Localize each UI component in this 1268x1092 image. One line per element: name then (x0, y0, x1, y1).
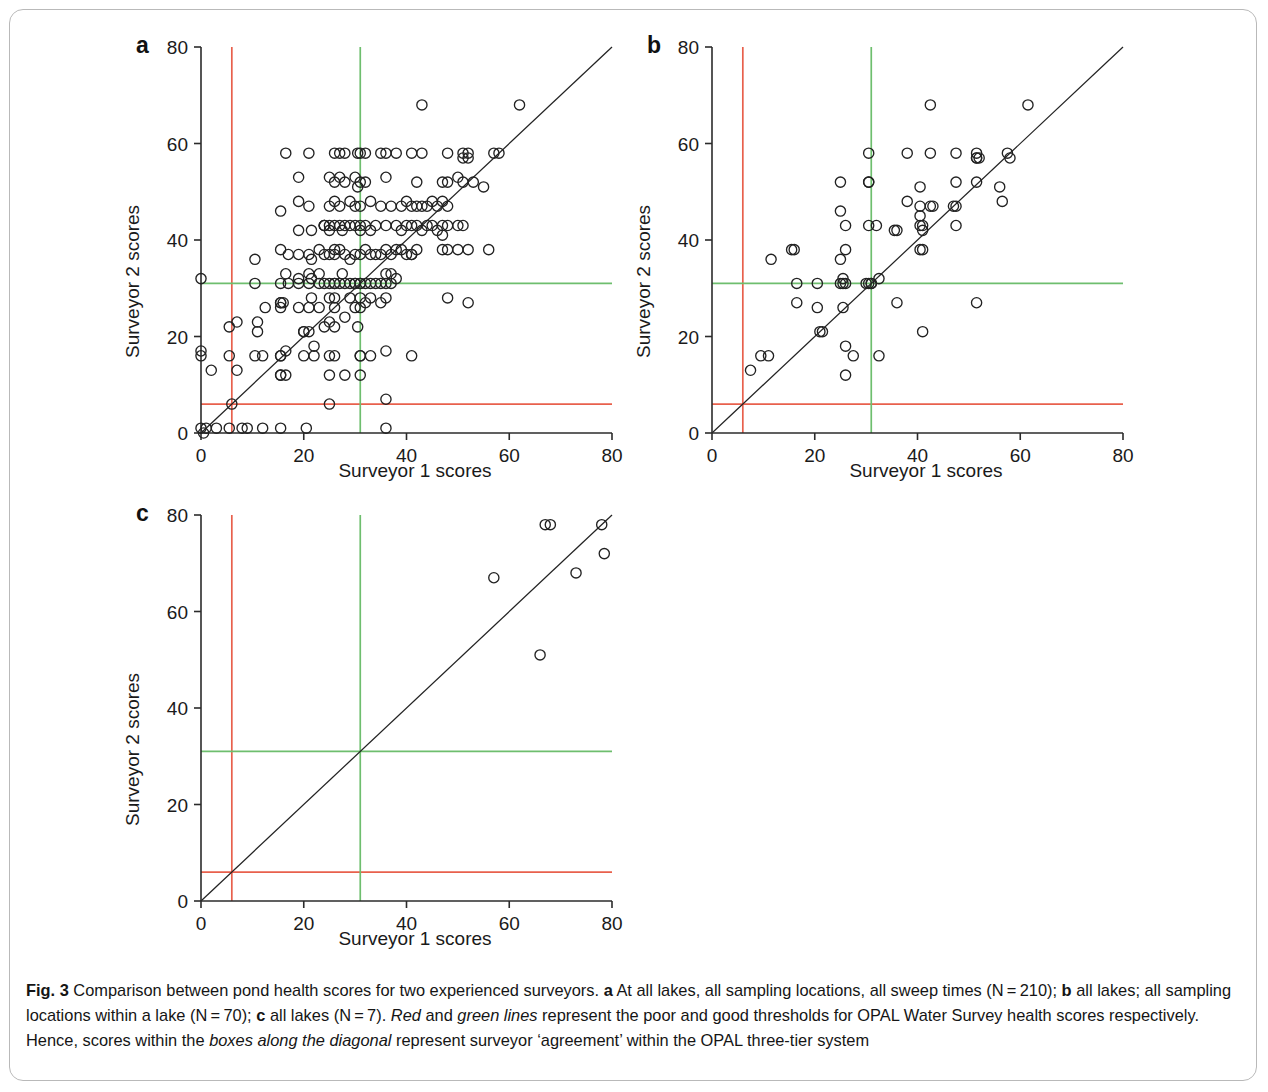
scatter-point (745, 365, 755, 375)
y-tick-label: 40 (167, 230, 188, 251)
scatter-point (276, 206, 286, 216)
scatter-point (812, 302, 822, 312)
y-tick-label: 60 (678, 134, 699, 155)
identity-diagonal-line (201, 47, 612, 433)
scatter-point (407, 351, 417, 361)
scatter-point (281, 269, 291, 279)
scatter-series (745, 100, 1033, 380)
scatter-point (951, 220, 961, 230)
scatter-point (211, 423, 221, 433)
y-tick-label: 60 (167, 602, 188, 623)
scatter-point (951, 201, 961, 211)
scatter-point (294, 249, 304, 259)
scatter-point (353, 322, 363, 332)
identity-diagonal-line (201, 515, 612, 901)
scatter-point (276, 245, 286, 255)
panel-b-canvas: 020406080020406080 (641, 28, 1151, 498)
y-tick-label: 20 (167, 795, 188, 816)
scatter-point (902, 148, 912, 158)
scatter-point (412, 177, 422, 187)
scatter-point (864, 148, 874, 158)
scatter-point (864, 177, 874, 187)
caption-fragment: represent surveyor ‘agreement’ within th… (391, 1031, 869, 1049)
scatter-point (309, 341, 319, 351)
scatter-point (514, 100, 524, 110)
scatter-point (874, 274, 884, 284)
scatter-point (763, 351, 773, 361)
scatter-point (232, 365, 242, 375)
scatter-point (463, 245, 473, 255)
scatter-point (835, 177, 845, 187)
scatter-point (874, 351, 884, 361)
panel-a-ylabel: Surveyor 2 scores (122, 205, 144, 358)
scatter-point (276, 423, 286, 433)
scatter-point (792, 298, 802, 308)
scatter-point (345, 293, 355, 303)
scatter-point (304, 302, 314, 312)
caption-fragment: and (421, 1006, 457, 1024)
scatter-point (918, 327, 928, 337)
scatter-point (309, 351, 319, 361)
scatter-point (314, 269, 324, 279)
panel-a-xlabel: Surveyor 1 scores (205, 460, 625, 482)
scatter-point (840, 220, 850, 230)
panel-c-canvas: 020406080020406080 (130, 496, 640, 966)
scatter-point (915, 201, 925, 211)
y-tick-label: 80 (167, 505, 188, 526)
panel-b-letter: b (647, 34, 661, 57)
scatter-point (381, 220, 391, 230)
caption-fragment: Fig. 3 (26, 981, 69, 999)
scatter-point (252, 317, 262, 327)
y-tick-label: 60 (167, 134, 188, 155)
caption-fragment: At all lakes, all sampling locations, al… (613, 981, 1062, 999)
scatter-point (925, 201, 935, 211)
y-tick-label: 80 (167, 37, 188, 58)
scatter-point (838, 302, 848, 312)
scatter-point (902, 196, 912, 206)
scatter-point (789, 245, 799, 255)
scatter-point (340, 370, 350, 380)
scatter-point (915, 245, 925, 255)
scatter-point (915, 182, 925, 192)
scatter-point (889, 225, 899, 235)
scatter-point (381, 394, 391, 404)
scatter-point (453, 245, 463, 255)
figure-page: a 020406080020406080 Surveyor 1 scores S… (0, 0, 1268, 1092)
scatter-point (250, 254, 260, 264)
scatter-point (407, 148, 417, 158)
scatter-point (283, 249, 293, 259)
y-tick-label: 0 (177, 423, 188, 444)
caption-fragment: all lakes (N = 7). (265, 1006, 390, 1024)
scatter-point (840, 341, 850, 351)
scatter-point (840, 245, 850, 255)
scatter-point (281, 148, 291, 158)
scatter-point (304, 148, 314, 158)
scatter-point (299, 351, 309, 361)
panel-b: b 020406080020406080 Surveyor 1 scores S… (641, 28, 1151, 498)
caption-fragment: green lines (457, 1006, 537, 1024)
scatter-point (337, 269, 347, 279)
scatter-point (443, 148, 453, 158)
scatter-point (971, 177, 981, 187)
y-tick-label: 40 (678, 230, 699, 251)
scatter-point (871, 220, 881, 230)
scatter-point (294, 302, 304, 312)
scatter-point (817, 327, 827, 337)
scatter-point (478, 182, 488, 192)
caption-fragment: boxes along the diagonal (209, 1031, 391, 1049)
panel-a-canvas: 020406080020406080 (130, 28, 640, 498)
y-tick-label: 0 (688, 423, 699, 444)
scatter-point (468, 177, 478, 187)
scatter-point (484, 245, 494, 255)
panel-a: a 020406080020406080 Surveyor 1 scores S… (130, 28, 640, 498)
scatter-point (314, 302, 324, 312)
scatter-point (892, 298, 902, 308)
scatter-point (599, 549, 609, 559)
scatter-point (417, 100, 427, 110)
scatter-point (391, 148, 401, 158)
scatter-point (294, 196, 304, 206)
panel-b-ylabel: Surveyor 2 scores (633, 205, 655, 358)
scatter-point (304, 201, 314, 211)
scatter-point (463, 298, 473, 308)
y-tick-label: 20 (167, 327, 188, 348)
